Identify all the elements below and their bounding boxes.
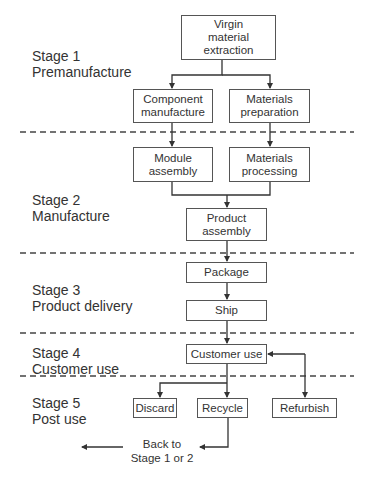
stage-5-label: Stage 5 Post use: [32, 395, 86, 427]
back-to-stage-note: Back to Stage 1 or 2: [126, 437, 198, 465]
node-materials-processing: Materials processing: [229, 147, 310, 182]
node-materials-preparation: Materials preparation: [229, 89, 310, 123]
stage-2-label: Stage 2 Manufacture: [32, 192, 110, 224]
stage-1-label: Stage 1 Premanufacture: [32, 48, 132, 80]
node-product-assembly: Product assembly: [186, 208, 267, 241]
node-component-manufacture: Component manufacture: [133, 89, 213, 123]
node-refurbish: Refurbish: [272, 398, 337, 418]
node-discard: Discard: [133, 398, 177, 418]
node-package: Package: [186, 262, 267, 283]
stage-4-label: Stage 4 Customer use: [32, 345, 119, 377]
node-recycle: Recycle: [197, 398, 248, 418]
stage-3-label: Stage 3 Product delivery: [32, 282, 132, 314]
node-virgin-material-extraction: Virgin material extraction: [181, 15, 276, 60]
node-customer-use: Customer use: [186, 344, 267, 364]
node-ship: Ship: [186, 300, 267, 321]
node-module-assembly: Module assembly: [133, 147, 213, 182]
